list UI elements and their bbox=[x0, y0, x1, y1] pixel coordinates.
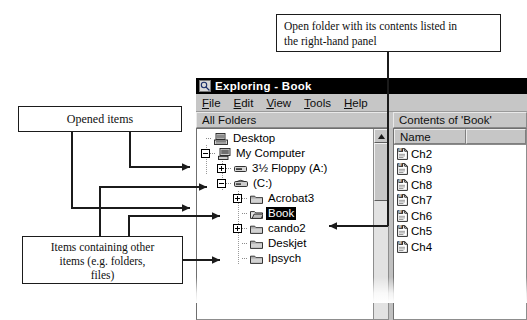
connector-containing-to-acrobat bbox=[129, 216, 220, 236]
connector-opened-to-c bbox=[72, 132, 190, 208]
callout-open-folder-line1: Open folder with its contents listed in bbox=[284, 19, 493, 34]
callout-containing-items-line2: items (e.g. folders, bbox=[23, 254, 182, 268]
callout-opened-items: Opened items bbox=[18, 106, 182, 132]
callout-open-folder-line2: the right-hand panel bbox=[284, 34, 493, 49]
callout-containing-items-line3: files) bbox=[23, 268, 182, 282]
connector-opened-to-mycomputer bbox=[130, 132, 190, 167]
callout-open-folder: Open folder with its contents listed in … bbox=[276, 14, 501, 52]
callout-containing-items-line1: Items containing other bbox=[23, 240, 182, 254]
callout-opened-items-label: Opened items bbox=[19, 107, 181, 131]
connector-containing-to-floppy bbox=[100, 187, 207, 236]
callout-containing-items: Items containing other items (e.g. folde… bbox=[22, 236, 183, 284]
